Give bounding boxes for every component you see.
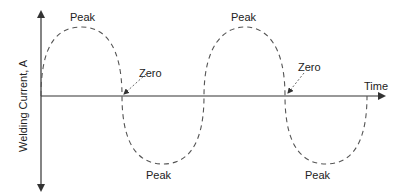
x-axis-label: Time bbox=[364, 80, 388, 92]
welding-current-diagram: Peak Peak Peak Peak Zero Zero Time Weldi… bbox=[0, 0, 415, 196]
peak-label-3: Peak bbox=[146, 169, 172, 181]
peak-label-1: Peak bbox=[70, 11, 96, 23]
peak-label-2: Peak bbox=[231, 11, 257, 23]
zero-pointer-2 bbox=[288, 73, 304, 93]
peak-label-4: Peak bbox=[305, 169, 331, 181]
zero-label-2: Zero bbox=[298, 61, 321, 73]
zero-label-1: Zero bbox=[139, 67, 162, 79]
y-axis-label: Welding Current, A bbox=[17, 59, 29, 152]
